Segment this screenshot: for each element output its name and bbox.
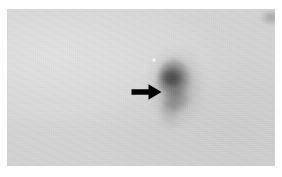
spot-lobe — [163, 89, 189, 111]
arrow-right-icon — [125, 79, 165, 105]
spot-core — [162, 69, 182, 87]
figure-root — [0, 0, 282, 177]
bright-speck — [152, 58, 156, 62]
corner-artifact-smudge — [262, 11, 275, 24]
micrograph-plate — [7, 9, 275, 166]
spot-tail — [162, 101, 178, 131]
